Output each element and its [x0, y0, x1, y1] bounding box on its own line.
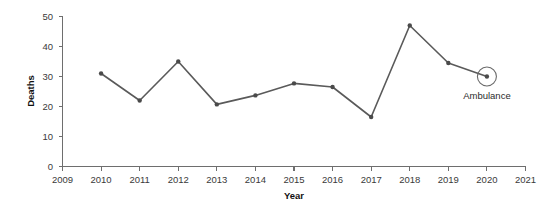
x-tick-label-2014: 2014: [245, 174, 266, 185]
x-tick-label-2009: 2009: [52, 174, 73, 185]
y-axis-ticks: [59, 17, 63, 167]
data-point-2010: [99, 71, 103, 75]
series-line-ambulance: [101, 26, 487, 118]
x-tick-label-2013: 2013: [206, 174, 227, 185]
y-tick-label-10: 10: [42, 131, 53, 142]
x-tick-label-2012: 2012: [168, 174, 189, 185]
x-axis-tick-labels: 2009 2010 2011 2012 2013 2014 2015 2016 …: [52, 174, 536, 185]
data-point-2011: [137, 98, 141, 102]
x-tick-label-2015: 2015: [283, 174, 304, 185]
series-markers-ambulance: [99, 23, 489, 119]
x-tick-label-2011: 2011: [129, 174, 149, 185]
x-axis-title: Year: [284, 190, 304, 201]
annotation-label-ambulance: Ambulance: [463, 90, 511, 101]
y-tick-label-40: 40: [42, 41, 53, 52]
y-tick-label-30: 30: [42, 71, 53, 82]
chart-canvas: 0 10 20 30 40 50 Deaths 2009: [0, 0, 557, 212]
y-tick-label-20: 20: [42, 101, 53, 112]
data-point-2015: [292, 81, 296, 85]
x-tick-label-2021: 2021: [515, 174, 536, 185]
data-point-2013: [215, 102, 219, 106]
x-tick-label-2018: 2018: [399, 174, 420, 185]
y-axis-tick-labels: 0 10 20 30 40 50: [42, 11, 53, 172]
data-point-2012: [176, 59, 180, 63]
x-tick-label-2016: 2016: [322, 174, 343, 185]
y-axis-title: Deaths: [25, 75, 36, 107]
deaths-by-year-line-chart: 0 10 20 30 40 50 Deaths 2009: [0, 0, 557, 212]
x-tick-label-2017: 2017: [361, 174, 382, 185]
data-point-2018: [408, 23, 412, 27]
data-point-2014: [253, 93, 257, 97]
y-tick-label-0: 0: [48, 161, 53, 172]
data-point-2019: [446, 61, 450, 65]
x-tick-label-2020: 2020: [476, 174, 497, 185]
y-tick-label-50: 50: [42, 11, 53, 22]
data-point-2016: [330, 85, 334, 89]
data-point-2017: [369, 115, 373, 119]
x-tick-label-2019: 2019: [438, 174, 459, 185]
x-axis-ticks: [63, 167, 526, 171]
x-tick-label-2010: 2010: [91, 174, 112, 185]
data-point-2020: [485, 74, 489, 78]
